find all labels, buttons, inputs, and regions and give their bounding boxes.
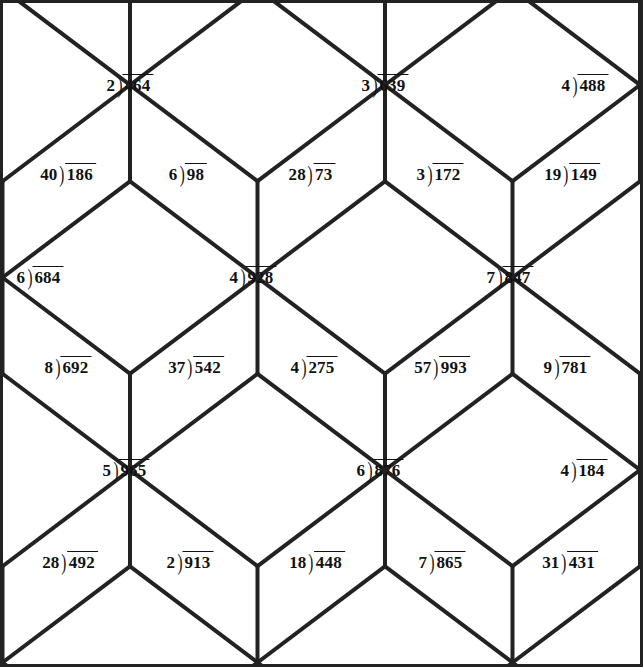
divisor: 5 [102, 461, 111, 481]
division-problem-p13[interactable]: 37)542 [168, 356, 224, 378]
tessellation-edge [385, 181, 513, 277]
long-division-bracket-icon: ) [301, 356, 306, 380]
dividend: 692 [60, 356, 91, 378]
divisor: 7 [486, 268, 495, 288]
long-division-bracket-icon: ) [434, 356, 439, 380]
tessellation-edge [130, 0, 243, 85]
divisor: 7 [418, 553, 427, 573]
long-division-bracket-icon: ) [177, 551, 182, 575]
tessellation-edge [3, 566, 131, 662]
tessellation-edge [17, 0, 130, 85]
long-division-bracket-icon: ) [571, 459, 576, 483]
divisor: 37 [168, 358, 185, 378]
division-problem-p8[interactable]: 19)149 [544, 163, 600, 185]
dividend: 913 [182, 551, 213, 573]
dividend: 965 [118, 459, 149, 481]
dividend: 492 [67, 551, 98, 573]
dividend: 781 [559, 356, 590, 378]
dividend: 639 [377, 74, 408, 96]
long-division-bracket-icon: ) [572, 74, 577, 98]
division-problem-p18[interactable]: 6)876 [356, 459, 403, 481]
divisor: 18 [289, 553, 306, 573]
division-problem-p7[interactable]: 3)172 [416, 163, 463, 185]
division-problem-p14[interactable]: 4)275 [290, 356, 337, 378]
division-problem-p11[interactable]: 7)847 [486, 266, 533, 288]
tessellation-edge [130, 181, 258, 277]
division-problem-p4[interactable]: 40)186 [40, 163, 96, 185]
tessellation-edge [385, 0, 498, 85]
dividend: 184 [576, 459, 607, 481]
division-problem-p10[interactable]: 4)928 [229, 266, 276, 288]
dividend: 73 [313, 163, 335, 185]
divisor: 9 [543, 358, 552, 378]
long-division-bracket-icon: ) [367, 459, 372, 483]
division-problem-p15[interactable]: 57)993 [414, 356, 470, 378]
division-problem-p1[interactable]: 2)464 [106, 74, 153, 96]
dividend: 542 [193, 356, 224, 378]
dividend: 464 [122, 74, 153, 96]
long-division-bracket-icon: ) [117, 74, 122, 98]
long-division-bracket-icon: ) [113, 459, 118, 483]
tessellation-edge [3, 181, 131, 277]
tessellation-edge [385, 374, 513, 470]
division-problem-p24[interactable]: 31)431 [542, 551, 598, 573]
division-problem-p20[interactable]: 28)492 [42, 551, 98, 573]
division-problem-p3[interactable]: 4)488 [561, 74, 608, 96]
divisor: 4 [561, 76, 570, 96]
division-problem-p22[interactable]: 18)448 [289, 551, 345, 573]
long-division-bracket-icon: ) [497, 266, 502, 290]
long-division-bracket-icon: ) [180, 163, 185, 187]
long-division-bracket-icon: ) [427, 163, 432, 187]
division-problem-p12[interactable]: 8)692 [44, 356, 91, 378]
dividend: 876 [372, 459, 403, 481]
tessellation-edge [130, 566, 258, 662]
tessellation-edge [385, 566, 513, 662]
dividend: 488 [577, 74, 608, 96]
divisor: 28 [42, 553, 59, 573]
long-division-bracket-icon: ) [240, 266, 245, 290]
long-division-bracket-icon: ) [27, 266, 32, 290]
division-problem-p23[interactable]: 7)865 [418, 551, 465, 573]
tessellation-edge [258, 181, 386, 277]
long-division-bracket-icon: ) [372, 74, 377, 98]
division-problem-p5[interactable]: 6)98 [169, 163, 207, 185]
divisor: 3 [416, 165, 425, 185]
tessellation-edge [258, 374, 386, 470]
divisor: 57 [414, 358, 431, 378]
long-division-bracket-icon: ) [554, 356, 559, 380]
division-problem-p17[interactable]: 5)965 [102, 459, 149, 481]
divisor: 4 [560, 461, 569, 481]
worksheet-page: 2)4643)6394)48840)1866)9828)733)17219)14… [0, 0, 643, 667]
dividend: 993 [439, 356, 470, 378]
division-problem-p19[interactable]: 4)184 [560, 459, 607, 481]
tessellation-edge [513, 181, 641, 277]
dividend: 172 [432, 163, 463, 185]
dividend: 149 [569, 163, 600, 185]
division-problem-p21[interactable]: 2)913 [166, 551, 213, 573]
tessellation-edge [130, 374, 258, 470]
divisor: 6 [169, 165, 178, 185]
long-division-bracket-icon: ) [62, 551, 67, 575]
division-problem-p9[interactable]: 6)684 [16, 266, 63, 288]
long-division-bracket-icon: ) [308, 163, 313, 187]
long-division-bracket-icon: ) [188, 356, 193, 380]
divisor: 40 [40, 165, 57, 185]
divisor: 31 [542, 553, 559, 573]
dividend: 448 [314, 551, 345, 573]
tessellation-edge [258, 566, 386, 662]
division-problem-p16[interactable]: 9)781 [543, 356, 590, 378]
dividend: 431 [567, 551, 598, 573]
long-division-bracket-icon: ) [429, 551, 434, 575]
dividend: 186 [65, 163, 96, 185]
dividend: 684 [32, 266, 63, 288]
long-division-bracket-icon: ) [60, 163, 65, 187]
divisor: 6 [356, 461, 365, 481]
division-problem-p2[interactable]: 3)639 [361, 74, 408, 96]
division-problem-p6[interactable]: 28)73 [288, 163, 335, 185]
divisor: 28 [288, 165, 305, 185]
tessellation-edge [513, 566, 641, 662]
long-division-bracket-icon: ) [309, 551, 314, 575]
divisor: 3 [361, 76, 370, 96]
long-division-bracket-icon: ) [55, 356, 60, 380]
divisor: 4 [229, 268, 238, 288]
